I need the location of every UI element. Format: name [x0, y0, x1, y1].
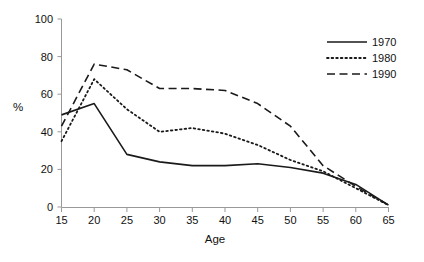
y-axis-tick-label: 100: [35, 13, 53, 25]
x-axis-tick-label: 55: [317, 214, 329, 226]
legend-label-1990: 1990: [372, 68, 396, 80]
x-axis-tick-label: 40: [219, 214, 231, 226]
y-axis-title: %: [13, 101, 23, 113]
y-axis-tick-label: 80: [41, 51, 53, 63]
line-chart: 020406080100 1520253035404550556065 % Ag…: [0, 0, 424, 262]
chart-container: 020406080100 1520253035404550556065 % Ag…: [0, 0, 424, 262]
x-axis-tick-label: 15: [55, 214, 67, 226]
y-axis-tick-label: 20: [41, 163, 53, 175]
x-axis-tick-label: 35: [186, 214, 198, 226]
x-axis-tick-label: 65: [382, 214, 394, 226]
y-axis-tick-label: 60: [41, 88, 53, 100]
x-axis-title: Age: [205, 233, 225, 245]
x-axis-tick-label: 50: [284, 214, 296, 226]
x-axis-tick-label: 20: [88, 214, 100, 226]
legend-label-1970: 1970: [372, 36, 396, 48]
y-axis-tick-label: 0: [47, 201, 53, 213]
y-axis-tick-label: 40: [41, 126, 53, 138]
x-axis-tick-label: 60: [350, 214, 362, 226]
x-axis-tick-label: 25: [121, 214, 133, 226]
x-axis-tick-label: 30: [153, 214, 165, 226]
legend-label-1980: 1980: [372, 52, 396, 64]
x-axis-tick-label: 45: [252, 214, 264, 226]
